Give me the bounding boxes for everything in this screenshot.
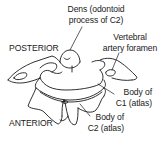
foramen-leader xyxy=(112,53,119,70)
anatomy-diagram: Dens (odontoid process of C2) POSTERIOR … xyxy=(0,0,160,142)
foramen-label-line2: artery foramen xyxy=(98,43,160,54)
foramen-label-line1: Vertebral xyxy=(98,32,160,43)
dens-leader xyxy=(70,27,82,50)
dens-outline xyxy=(60,50,80,72)
body-c1-label-line2: C1 (atlas) xyxy=(108,98,152,109)
dens-label: Dens (odontoid process of C2) xyxy=(64,4,128,25)
body-c1-label: Body of C1 (atlas) xyxy=(108,87,152,108)
body-c1-label-line1: Body of xyxy=(108,87,152,98)
body-c2-label: Body of C2 (atlas) xyxy=(80,112,124,133)
posterior-label: POSTERIOR xyxy=(9,43,59,54)
body-c2-label-line2: C2 (atlas) xyxy=(80,123,124,134)
dens-label-line2: process of C2) xyxy=(64,15,128,26)
dens-label-line1: Dens (odontoid xyxy=(64,4,128,15)
vertebral-artery-foramen-label: Vertebral artery foramen xyxy=(98,32,160,53)
body-c2-label-line1: Body of xyxy=(80,112,124,123)
anterior-label: ANTERIOR xyxy=(9,118,53,129)
